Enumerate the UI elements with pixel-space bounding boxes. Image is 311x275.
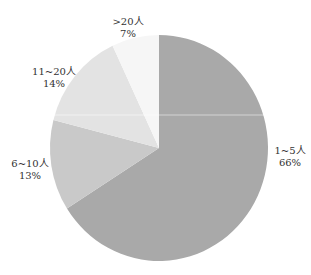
label-1-5-pct: 66% (270, 157, 310, 169)
label-1-5: 1~5人 66% (270, 145, 310, 169)
label-gt20-pct: 7% (106, 28, 150, 40)
label-gt20-name: >20人 (106, 16, 150, 28)
label-11-20-pct: 14% (30, 78, 78, 90)
label-6-10: 6~10人 13% (8, 158, 52, 182)
label-11-20: 11~20人 14% (30, 66, 78, 90)
label-11-20-name: 11~20人 (30, 66, 78, 78)
label-1-5-name: 1~5人 (270, 145, 310, 157)
label-6-10-name: 6~10人 (8, 158, 52, 170)
pie-chart (0, 0, 311, 275)
label-6-10-pct: 13% (8, 170, 52, 182)
label-gt20: >20人 7% (106, 16, 150, 40)
